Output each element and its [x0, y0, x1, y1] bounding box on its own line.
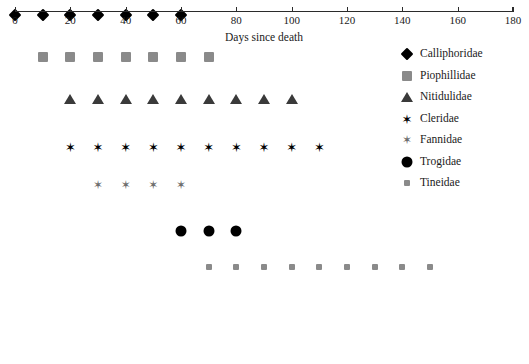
legend-item-trogidae[interactable]: Trogidae [400, 154, 529, 176]
triangle-marker-icon [258, 94, 270, 104]
x-tick-20 [70, 7, 71, 12]
star-marker-icon: ✶ [148, 142, 159, 153]
legend-label: Cleridae [420, 112, 459, 124]
x-tick-label-160: 160 [449, 14, 466, 26]
x-tick-0 [15, 7, 16, 12]
x-tick-label-20: 20 [65, 14, 76, 26]
data-point-cleridae-day-40: ✶ [120, 142, 131, 153]
square-small-marker-icon [344, 264, 350, 270]
x-tick-label-140: 140 [394, 14, 411, 26]
triangle-marker-icon [175, 94, 187, 104]
data-point-nitidulidae-day-80 [230, 94, 242, 104]
legend-item-piophillidae[interactable]: Piophillidae [400, 68, 529, 90]
triangle-marker-icon [286, 94, 298, 104]
diamond-marker-icon [400, 46, 414, 62]
legend-label: Piophillidae [420, 69, 476, 81]
star-marker-icon: ✶ [65, 142, 76, 153]
data-point-tineidae-day-80 [233, 264, 239, 270]
x-tick-160 [458, 7, 459, 12]
data-point-nitidulidae-day-70 [203, 94, 215, 104]
data-point-tineidae-day-120 [344, 264, 350, 270]
triangle-marker-icon [147, 94, 159, 104]
square-small-marker-icon [316, 264, 322, 270]
x-axis-title: Days since death [225, 31, 303, 43]
data-point-cleridae-day-100: ✶ [286, 142, 297, 153]
data-point-nitidulidae-day-100 [286, 94, 298, 104]
triangle-marker-icon [120, 94, 132, 104]
data-point-fannidae-day-60: ✶ [176, 180, 186, 190]
triangle-marker-icon [400, 89, 414, 105]
legend-item-calliphoridae[interactable]: Calliphoridae [400, 46, 529, 68]
data-point-cleridae-day-20: ✶ [65, 142, 76, 153]
x-tick-140 [402, 7, 403, 12]
data-point-cleridae-day-60: ✶ [176, 142, 187, 153]
x-tick-100 [292, 7, 293, 12]
x-axis-line [15, 11, 513, 12]
data-point-trogidae-day-70 [203, 226, 214, 237]
x-tick-label-60: 60 [176, 14, 187, 26]
triangle-marker-icon [230, 94, 242, 104]
data-point-trogidae-day-80 [231, 226, 242, 237]
legend-label: Fannidae [420, 133, 462, 145]
star-gray-marker-icon: ✶ [400, 132, 414, 148]
circle-marker-icon [231, 226, 242, 237]
x-tick-label-100: 100 [283, 14, 300, 26]
data-point-nitidulidae-day-20 [64, 94, 76, 104]
x-tick-label-120: 120 [339, 14, 356, 26]
square-small-marker-icon [427, 264, 433, 270]
square-small-marker-icon [399, 264, 405, 270]
data-point-tineidae-day-100 [289, 264, 295, 270]
data-point-cleridae-day-30: ✶ [93, 142, 104, 153]
data-point-cleridae-day-70: ✶ [203, 142, 214, 153]
x-tick-label-0: 0 [12, 14, 18, 26]
data-point-nitidulidae-day-60 [175, 94, 187, 104]
star-marker-icon: ✶ [400, 111, 414, 127]
data-point-cleridae-day-50: ✶ [148, 142, 159, 153]
x-tick-label-80: 80 [231, 14, 242, 26]
data-point-tineidae-day-140 [399, 264, 405, 270]
star-gray-marker-icon: ✶ [93, 180, 103, 190]
chart-legend: CalliphoridaePiophillidaeNitidulidae✶Cle… [400, 46, 529, 197]
legend-label: Calliphoridae [420, 47, 483, 59]
star-gray-marker-icon: ✶ [121, 180, 131, 190]
triangle-marker-icon [92, 94, 104, 104]
star-marker-icon: ✶ [259, 142, 270, 153]
star-gray-marker-icon: ✶ [176, 180, 186, 190]
data-point-cleridae-day-90: ✶ [259, 142, 270, 153]
triangle-marker-icon [203, 94, 215, 104]
square-small-marker-icon [206, 264, 212, 270]
star-gray-marker-icon: ✶ [148, 180, 158, 190]
insect-succession-timeline-chart: ✶✶✶✶✶✶✶✶✶✶✶✶✶✶ 020406080100120140160180 … [0, 0, 529, 364]
x-tick-label-40: 40 [120, 14, 131, 26]
x-tick-label-180: 180 [505, 14, 522, 26]
square-small-marker-icon [261, 264, 267, 270]
data-point-cleridae-day-80: ✶ [231, 142, 242, 153]
data-point-nitidulidae-day-90 [258, 94, 270, 104]
legend-item-cleridae[interactable]: ✶Cleridae [400, 111, 529, 133]
legend-item-fannidae[interactable]: ✶Fannidae [400, 132, 529, 154]
star-marker-icon: ✶ [176, 142, 187, 153]
square-marker-icon [400, 68, 414, 84]
star-marker-icon: ✶ [203, 142, 214, 153]
legend-label: Nitidulidae [420, 90, 472, 102]
data-point-nitidulidae-day-30 [92, 94, 104, 104]
circle-marker-icon [400, 154, 414, 170]
legend-item-nitidulidae[interactable]: Nitidulidae [400, 89, 529, 111]
star-marker-icon: ✶ [231, 142, 242, 153]
legend-item-tineidae[interactable]: Tineidae [400, 175, 529, 197]
x-tick-120 [347, 7, 348, 12]
legend-label: Tineidae [420, 176, 460, 188]
data-point-tineidae-day-110 [316, 264, 322, 270]
data-point-fannidae-day-30: ✶ [93, 180, 103, 190]
x-tick-60 [181, 7, 182, 12]
star-marker-icon: ✶ [93, 142, 104, 153]
star-marker-icon: ✶ [286, 142, 297, 153]
data-point-trogidae-day-60 [176, 226, 187, 237]
star-marker-icon: ✶ [314, 142, 325, 153]
legend-label: Trogidae [420, 155, 461, 167]
circle-marker-icon [203, 226, 214, 237]
x-tick-40 [126, 7, 127, 12]
data-point-fannidae-day-50: ✶ [148, 180, 158, 190]
data-point-nitidulidae-day-50 [147, 94, 159, 104]
square-small-marker-icon [289, 264, 295, 270]
